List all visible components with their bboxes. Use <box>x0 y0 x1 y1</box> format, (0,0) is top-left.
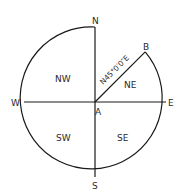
quadrant-nw: NW <box>55 74 71 84</box>
label-point-b: B <box>143 42 149 52</box>
quadrant-sw: SW <box>56 133 71 143</box>
compass-arc <box>20 27 162 169</box>
quadrant-ne: NE <box>124 80 137 90</box>
label-south: S <box>92 181 98 191</box>
label-east: E <box>168 98 174 108</box>
bearing-diagram: N S E W A B NW NE SW SE N45°0′0″E <box>0 0 183 194</box>
label-point-a: A <box>95 107 102 117</box>
label-north: N <box>92 16 99 26</box>
label-west: W <box>11 98 20 108</box>
quadrant-se: SE <box>117 133 129 143</box>
